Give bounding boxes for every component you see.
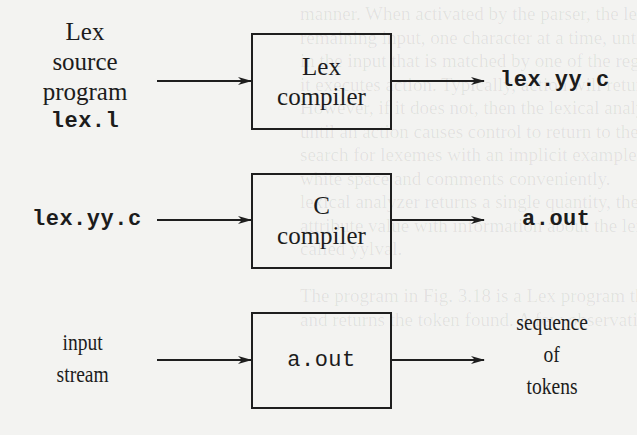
label-line: tokens [526,371,577,403]
label-line: stream [57,359,109,391]
label-line: of [544,339,560,371]
box-label-line: Lex [302,52,341,82]
a-out-output-label: a.out [522,205,591,235]
label-line: Lex [66,17,105,47]
label-line: program [43,77,128,107]
box-label-line: C [313,191,330,221]
lex-compiler-box: Lex compiler [251,33,392,130]
box-label-line: compiler [277,82,366,112]
lex-yy-c-output-label: lex.yy.c [500,66,610,96]
lex-yy-c-input-label: lex.yy.c [32,205,142,235]
sequence-of-tokens-label: sequence of tokens [497,307,607,403]
box-label-line: compiler [277,221,366,251]
a-out-box: a.out [251,312,392,409]
label-line: sequence [516,307,588,339]
box-file-name: a.out [287,346,356,376]
lex-source-program-label: Lex source program lex.l [40,17,130,137]
label-line: source [52,47,117,77]
file-name: lex.l [51,107,120,137]
file-name: a.out [522,205,591,235]
input-stream-label: input stream [38,327,128,391]
label-line: input [63,327,103,359]
c-compiler-box: C compiler [251,173,392,269]
file-name: lex.yy.c [32,205,142,235]
file-name: lex.yy.c [500,66,610,96]
